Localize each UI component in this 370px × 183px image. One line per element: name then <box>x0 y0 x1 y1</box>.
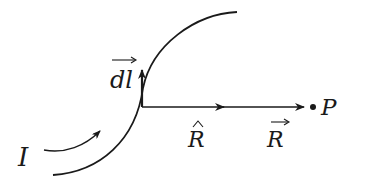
r-hat-label: R <box>187 127 205 152</box>
current-direction-arrow <box>44 131 100 151</box>
r-hat-label-group: R <box>187 121 205 152</box>
r-vector-label-group: R <box>266 119 289 152</box>
biot-savart-diagram: P I dl R R <box>0 0 370 183</box>
point-p-label: P <box>320 94 337 120</box>
point-p <box>310 104 316 110</box>
r-vector-label: R <box>266 127 284 152</box>
current-carrying-wire <box>53 12 237 175</box>
dl-label: dl <box>110 66 133 94</box>
current-label: I <box>17 142 29 172</box>
dl-label-group: dl <box>110 57 136 94</box>
